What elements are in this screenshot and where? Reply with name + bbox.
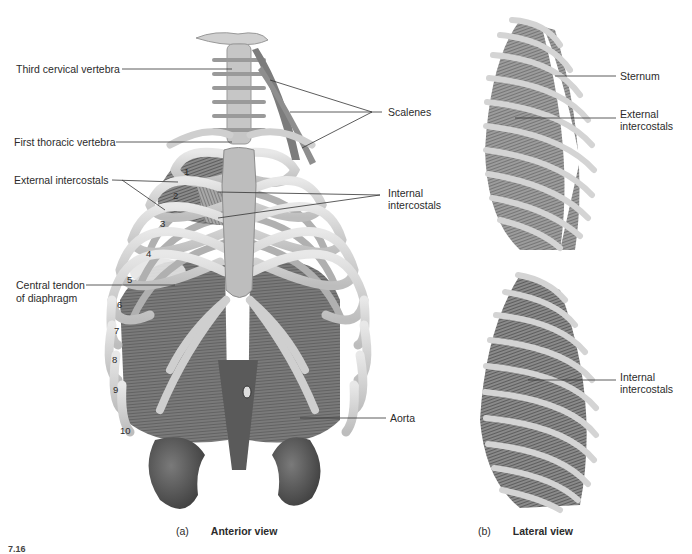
rib-number-4: 4 — [146, 248, 151, 259]
caption-panel-b: (b)Lateral view — [478, 525, 573, 537]
caption-a-view: Anterior view — [211, 525, 278, 537]
sternum — [222, 148, 256, 298]
caption-b-letter: (b) — [478, 525, 491, 537]
label-third-cervical-vertebra: Third cervical vertebra — [16, 63, 120, 75]
rib-number-1: 1 — [184, 166, 189, 177]
label-internal-intercostals-lateral-1: Internal — [620, 371, 655, 383]
label-internal-intercostals-anterior-1: Internal — [388, 187, 423, 199]
rib-number-7: 7 — [114, 325, 119, 336]
figure-number: 7.16 — [8, 544, 26, 554]
left-kidney — [149, 437, 205, 509]
label-external-intercostals-anterior: External intercostals — [14, 174, 109, 186]
label-internal-intercostals-lateral-2: intercostals — [620, 383, 673, 395]
label-first-thoracic-vertebra: First thoracic vertebra — [14, 136, 116, 148]
rib-number-5: 5 — [127, 274, 132, 285]
label-external-intercostals-lateral-2: intercostals — [620, 120, 673, 132]
anatomy-illustration — [0, 0, 692, 554]
right-kidney — [272, 437, 321, 506]
anterior-ribcage — [109, 33, 367, 509]
label-of-diaphragm: of diaphragm — [16, 292, 77, 304]
label-sternum: Sternum — [620, 70, 660, 82]
rib-number-10: 10 — [120, 425, 131, 436]
caption-panel-a: (a)Anterior view — [176, 525, 277, 537]
rib-number-6: 6 — [117, 299, 122, 310]
lateral-ribcage-internal — [480, 275, 596, 510]
respiratory-muscles-figure: Third cervical vertebra First thoracic v… — [0, 0, 692, 554]
label-scalenes: Scalenes — [388, 106, 431, 118]
caption-b-view: Lateral view — [513, 525, 573, 537]
label-aorta: Aorta — [390, 412, 415, 424]
label-central-tendon: Central tendon — [16, 279, 85, 291]
rib-number-2: 2 — [173, 190, 178, 201]
aorta — [243, 386, 251, 398]
lateral-ribcage-external — [485, 20, 594, 250]
label-external-intercostals-lateral-1: External — [620, 108, 659, 120]
rib-number-9: 9 — [113, 384, 118, 395]
label-internal-intercostals-anterior-2: intercostals — [388, 199, 441, 211]
rib-number-8: 8 — [112, 354, 117, 365]
caption-a-letter: (a) — [176, 525, 189, 537]
rib-number-3: 3 — [160, 218, 165, 229]
